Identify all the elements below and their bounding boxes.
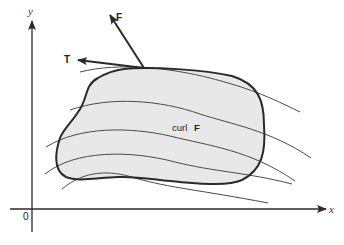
curl-diagram: y x 0 F T curl F [0, 0, 344, 245]
curl-label-prefix: curl [172, 122, 187, 133]
curl-label: curl F [172, 122, 200, 133]
region [56, 68, 264, 184]
field-vector-label: F [116, 12, 122, 23]
origin-label: 0 [23, 211, 29, 222]
y-axis-label: y [27, 5, 33, 17]
tangent-vector-label: T [64, 54, 70, 65]
x-axis-label: x [328, 203, 334, 215]
curl-label-vector: F [194, 122, 200, 133]
tangent-vector-T [78, 60, 144, 68]
